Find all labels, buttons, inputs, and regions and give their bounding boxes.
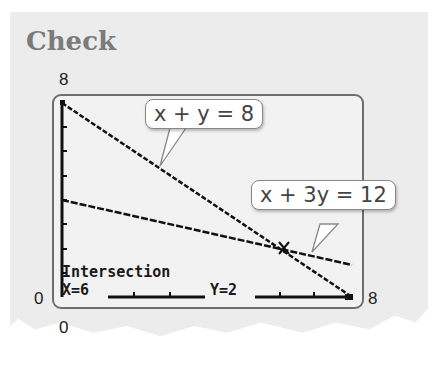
- callout-pointer-1: [160, 128, 186, 166]
- callout-x-plus-3y: x + 3y = 12: [251, 180, 396, 210]
- callout-x-plus-y: x + y = 8: [145, 99, 263, 129]
- x-readout: X=6: [62, 281, 89, 299]
- y-readout: Y=2: [210, 281, 237, 299]
- callout-pointer-2: [312, 224, 338, 252]
- intersection-mode-text: Intersection: [62, 263, 170, 281]
